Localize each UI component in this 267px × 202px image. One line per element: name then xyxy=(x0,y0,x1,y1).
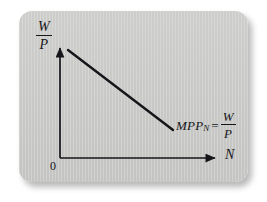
curve-label-numerator: W xyxy=(221,110,236,124)
x-axis-label: N xyxy=(225,148,234,162)
curve-label-equals: = xyxy=(211,119,218,132)
curve-label-denominator: P xyxy=(221,126,236,140)
curve-label-fraction: W P xyxy=(221,110,236,140)
y-axis-fraction: W P xyxy=(36,20,52,52)
y-axis-denominator: P xyxy=(36,37,52,52)
curve-label-subscript: N xyxy=(203,124,209,133)
fraction-bar xyxy=(36,35,52,36)
curve-label-symbol: MPP xyxy=(176,119,203,132)
y-axis-label: W P xyxy=(36,20,52,52)
figure-root: W P N 0 MPPN = W P xyxy=(0,0,267,202)
origin-label: 0 xyxy=(50,160,56,172)
mpp-curve xyxy=(68,50,173,130)
fraction-bar xyxy=(221,124,236,125)
curve-label: MPPN = W P xyxy=(176,110,236,140)
y-axis-numerator: W xyxy=(36,20,52,35)
